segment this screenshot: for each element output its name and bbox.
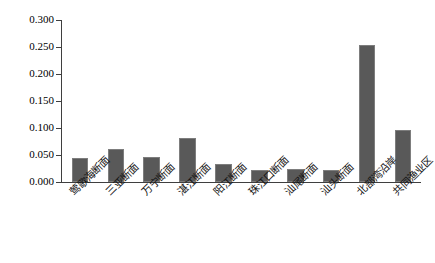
x-axis-tick-label: 万宁断面 bbox=[138, 160, 177, 199]
bar-chart: 0.3000.2500.2000.1500.1000.0500.000 莺歌海断… bbox=[0, 0, 435, 263]
y-axis-tick-mark bbox=[56, 128, 62, 129]
x-axis-tick-label: 汕头断面 bbox=[317, 160, 356, 199]
y-axis-tick-mark bbox=[56, 47, 62, 48]
y-axis-tick-mark bbox=[56, 155, 62, 156]
y-axis-tick-mark bbox=[56, 20, 62, 21]
y-axis-tick-mark bbox=[56, 182, 62, 183]
x-axis-label-group: 莺歌海断面三亚断面万宁断面湛江断面阳江断面珠江口断面汕尾断面汕头断面北部湾沿岸共… bbox=[0, 0, 435, 263]
x-axis-tick-label: 湛江断面 bbox=[174, 160, 213, 199]
y-axis-tick-mark bbox=[56, 101, 62, 102]
x-axis-tick-label: 阳江断面 bbox=[210, 160, 249, 199]
y-axis-tick-mark bbox=[56, 74, 62, 75]
